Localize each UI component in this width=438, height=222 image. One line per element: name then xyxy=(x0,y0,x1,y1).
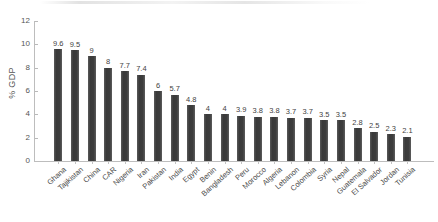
bar-value-label: 4 xyxy=(222,105,226,113)
chart-bar xyxy=(354,128,362,161)
bar-slot: 3.8 xyxy=(249,21,266,161)
x-axis-tick-mark xyxy=(274,161,275,164)
y-axis-tick-label: 0 xyxy=(26,156,30,166)
bar-slot: 7.7 xyxy=(116,21,133,161)
x-axis-tick-mark xyxy=(141,161,142,164)
bar-value-label: 4 xyxy=(206,105,210,113)
chart-bar xyxy=(337,120,345,161)
bar-value-label: 3.5 xyxy=(319,111,329,119)
chart-bar xyxy=(370,132,378,161)
chart-bar xyxy=(221,114,229,161)
plot-area: 9.69.5987.77.465.74.8443.93.83.83.73.73.… xyxy=(35,21,434,161)
bar-value-label: 9.5 xyxy=(70,41,80,49)
bar-value-label: 2.1 xyxy=(402,127,412,135)
chart-bar xyxy=(54,49,62,161)
y-axis: 024681012 xyxy=(0,0,36,222)
bar-slot: 4 xyxy=(200,21,217,161)
chart-bar xyxy=(304,118,312,161)
bar-slot: 3.5 xyxy=(316,21,333,161)
bar-slot: 2.3 xyxy=(382,21,399,161)
x-axis-labels: GhanaTajikistanChinaCARNigeriaIranPakist… xyxy=(35,165,434,222)
chart-bar xyxy=(71,50,79,161)
chart-bar xyxy=(320,120,328,161)
chart-bar xyxy=(387,134,395,161)
bar-slot: 8 xyxy=(100,21,117,161)
bar-slot: 4 xyxy=(216,21,233,161)
x-axis-category-label: Syria xyxy=(316,165,335,183)
bar-value-label: 3.5 xyxy=(336,111,346,119)
bar-value-label: 4.8 xyxy=(186,96,196,104)
x-axis-category-label: China xyxy=(81,165,102,185)
y-axis-tick-label: 2 xyxy=(26,133,30,143)
x-axis-tick-mark xyxy=(175,161,176,164)
x-axis-tick-mark xyxy=(341,161,342,164)
bar-slot: 9.5 xyxy=(67,21,84,161)
x-axis-tick-mark xyxy=(391,161,392,164)
chart-bar xyxy=(270,117,278,161)
bar-value-label: 9 xyxy=(89,47,93,55)
chart-bar xyxy=(187,105,195,161)
bar-slot: 2.5 xyxy=(366,21,383,161)
bar-slot: 6 xyxy=(150,21,167,161)
bar-slot: 9.6 xyxy=(50,21,67,161)
x-axis-tick-mark xyxy=(258,161,259,164)
bar-slot: 3.5 xyxy=(333,21,350,161)
x-axis-tick-mark xyxy=(241,161,242,164)
x-axis-tick-mark xyxy=(324,161,325,164)
bar-slot: 3.7 xyxy=(299,21,316,161)
bar-value-label: 3.8 xyxy=(269,107,279,115)
bar-value-label: 6 xyxy=(156,82,160,90)
x-axis-tick-mark xyxy=(225,161,226,164)
x-axis-tick-mark xyxy=(75,161,76,164)
y-axis-tick-label: 4 xyxy=(26,109,30,119)
y-axis-tick-label: 10 xyxy=(21,39,30,49)
x-axis-tick-mark xyxy=(291,161,292,164)
chart-bar xyxy=(403,137,411,162)
bar-slot: 4.8 xyxy=(183,21,200,161)
x-axis-category-label: Egypt xyxy=(181,165,201,185)
bar-slot: 2.1 xyxy=(399,21,416,161)
x-axis-tick-mark xyxy=(108,161,109,164)
bar-value-label: 3.7 xyxy=(286,108,296,116)
chart-bar xyxy=(171,95,179,162)
chart-bar xyxy=(287,118,295,161)
x-axis-tick-mark xyxy=(358,161,359,164)
y-axis-tick-label: 8 xyxy=(26,63,30,73)
bar-value-label: 2.3 xyxy=(386,125,396,133)
chart-bar xyxy=(254,117,262,161)
bar-slot: 9 xyxy=(83,21,100,161)
chart-bar xyxy=(121,71,129,161)
bar-value-label: 7.7 xyxy=(120,62,130,70)
bar-value-label: 7.4 xyxy=(136,65,146,73)
x-axis-tick-mark xyxy=(92,161,93,164)
y-axis-tick-label: 6 xyxy=(26,86,30,96)
bar-slot: 3.9 xyxy=(233,21,250,161)
x-axis-tick-mark xyxy=(407,161,408,164)
x-axis-tick-mark xyxy=(191,161,192,164)
bar-value-label: 8 xyxy=(106,58,110,66)
bar-value-label: 3.8 xyxy=(253,107,263,115)
bar-slot: 3.7 xyxy=(283,21,300,161)
chart-bar xyxy=(154,91,162,161)
bar-slot: 7.4 xyxy=(133,21,150,161)
x-axis-tick-mark xyxy=(125,161,126,164)
bar-slot: 2.8 xyxy=(349,21,366,161)
chart-bar xyxy=(88,56,96,161)
y-axis-tick-label: 12 xyxy=(21,16,30,26)
bar-value-label: 9.6 xyxy=(53,40,63,48)
x-axis-tick-mark xyxy=(374,161,375,164)
x-axis-tick-mark xyxy=(58,161,59,164)
chart-bar xyxy=(137,75,145,161)
bar-value-label: 3.9 xyxy=(236,106,246,114)
bar-value-label: 2.8 xyxy=(352,119,362,127)
bar-value-label: 5.7 xyxy=(169,85,179,93)
bar-chart: % GDP 024681012 9.69.5987.77.465.74.8443… xyxy=(0,0,438,222)
scan-artifact xyxy=(40,1,370,4)
bar-value-label: 3.7 xyxy=(302,108,312,116)
chart-bar xyxy=(104,68,112,161)
bar-slot: 3.8 xyxy=(266,21,283,161)
x-axis-tick-mark xyxy=(208,161,209,164)
bar-slot: 5.7 xyxy=(166,21,183,161)
chart-bar xyxy=(237,116,245,162)
bar-value-label: 2.5 xyxy=(369,122,379,130)
